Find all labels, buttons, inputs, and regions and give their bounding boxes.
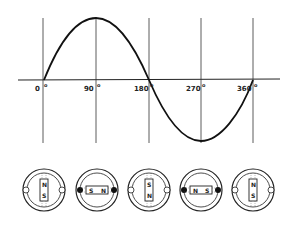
- svg-text:o: o: [97, 82, 101, 88]
- side-pole-right: [215, 187, 221, 193]
- rotor-360deg: N S: [232, 169, 274, 211]
- svg-text:o: o: [150, 82, 154, 88]
- tick-label-270: 270: [186, 85, 201, 93]
- tick-label-0: 0: [35, 85, 40, 93]
- side-pole-right: [59, 187, 65, 193]
- side-pole-left: [232, 187, 238, 193]
- tick-label-90: 90: [84, 85, 94, 93]
- side-pole-right: [164, 187, 170, 193]
- rotor-270deg: N S: [180, 169, 222, 211]
- svg-text:N: N: [251, 181, 256, 188]
- svg-text:o: o: [254, 82, 258, 88]
- tick-labels: 0 o 90 o 180 o 270 o 360 o: [35, 82, 258, 93]
- side-pole-right: [111, 187, 117, 193]
- svg-text:N: N: [147, 192, 152, 199]
- rotor-0deg: N S: [23, 169, 65, 211]
- sine-wave-diagram: 0 o 90 o 180 o 270 o 360 o N S: [0, 0, 294, 228]
- side-pole-left: [23, 187, 29, 193]
- svg-text:S: S: [147, 181, 151, 188]
- svg-text:S: S: [89, 187, 93, 194]
- svg-text:S: S: [251, 192, 255, 199]
- svg-text:o: o: [44, 82, 48, 88]
- rotor-90deg: S N: [76, 169, 118, 211]
- svg-text:N: N: [193, 187, 198, 194]
- svg-text:N: N: [42, 181, 47, 188]
- svg-text:S: S: [205, 187, 209, 194]
- side-pole-left: [128, 187, 134, 193]
- tick-label-360: 360: [237, 85, 252, 93]
- svg-text:N: N: [101, 187, 106, 194]
- rotor-diagrams: N S S N S N: [23, 169, 274, 211]
- svg-text:o: o: [202, 82, 206, 88]
- tick-label-180: 180: [134, 85, 149, 93]
- vertical-gridlines: [43, 18, 253, 143]
- svg-text:S: S: [42, 192, 46, 199]
- side-pole-right: [268, 187, 274, 193]
- rotor-180deg: S N: [128, 169, 170, 211]
